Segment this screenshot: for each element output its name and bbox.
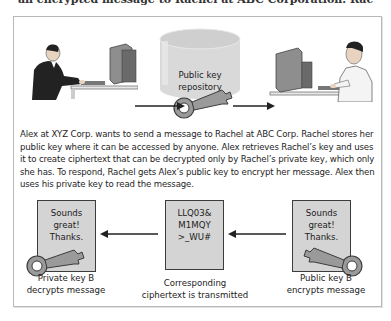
label-line: Corresponding <box>140 277 250 289</box>
plaintext-reply-text: Sounds great! Thanks. <box>293 207 350 243</box>
doc-line: great! <box>38 219 95 231</box>
middle-step-label: Corresponding ciphertext is transmitted <box>140 277 250 301</box>
label-line: encrypts message <box>285 284 367 296</box>
decrypted-message-text: Sounds great! Thanks. <box>38 207 95 243</box>
doc-line: Sounds <box>38 207 95 219</box>
doc-line: Thanks. <box>293 231 350 243</box>
doc-line: Sounds <box>293 207 350 219</box>
doc-line: >_WU# <box>166 231 223 243</box>
explanation-caption: Alex at XYZ Corp. wants to send a messag… <box>20 128 380 191</box>
label-line: ciphertext is transmitted <box>140 289 250 301</box>
ciphertext-document: LLQ03& M1MQY >_WU# <box>165 200 224 270</box>
doc-line: Thanks. <box>38 231 95 243</box>
top-arrows <box>135 100 275 112</box>
sender-person-icon <box>26 40 138 100</box>
doc-line: LLQ03& <box>166 207 223 219</box>
label-line: decrypts message <box>25 284 107 296</box>
label-line: Public key B <box>285 272 367 284</box>
label-line: Private key B <box>25 272 107 284</box>
doc-line: great! <box>293 219 350 231</box>
repository-label-line1: Public key <box>168 69 232 81</box>
doc-line: M1MQY <box>166 219 223 231</box>
receiver-person-icon <box>268 32 380 102</box>
ciphertext-text: LLQ03& M1MQY >_WU# <box>166 207 223 243</box>
cropped-title-line: an encrypted message to Rachel at ABC Co… <box>0 0 391 6</box>
right-step-label: Public key B encrypts message <box>285 272 367 296</box>
left-step-label: Private key B decrypts message <box>25 272 107 296</box>
